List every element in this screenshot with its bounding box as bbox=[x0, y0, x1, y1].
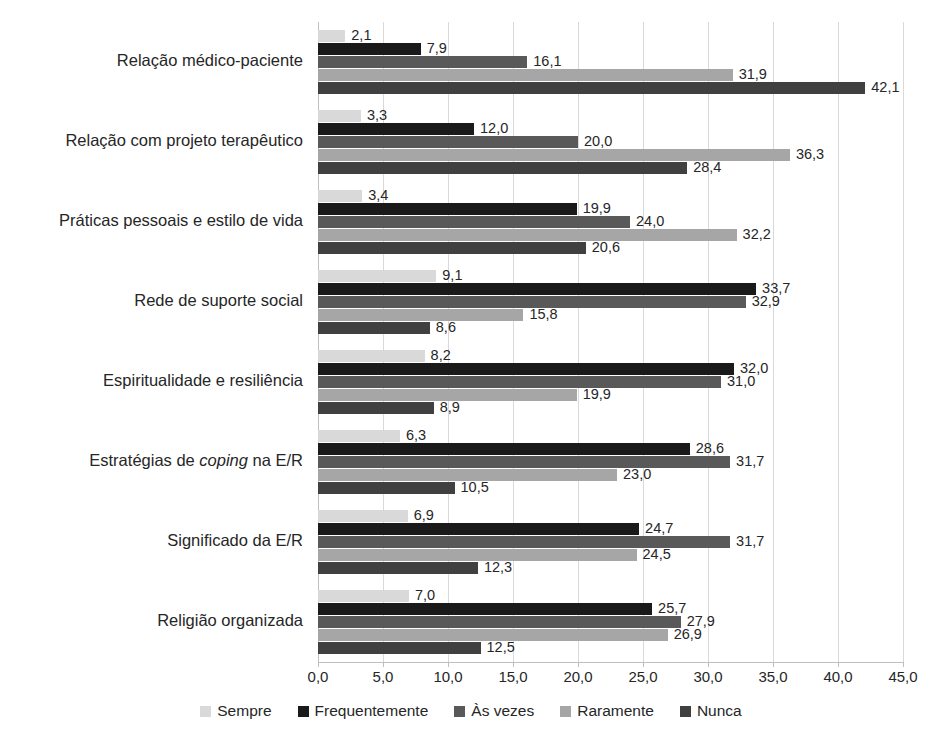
bar[interactable] bbox=[318, 350, 425, 362]
bar-row: 12,5 bbox=[318, 642, 903, 654]
bar-value-label: 24,0 bbox=[630, 213, 664, 229]
bar[interactable] bbox=[318, 242, 586, 254]
legend-item[interactable]: Às vezes bbox=[454, 702, 534, 720]
bar[interactable] bbox=[318, 376, 721, 388]
bar[interactable] bbox=[318, 603, 652, 615]
x-axis-line bbox=[318, 662, 903, 663]
bar[interactable] bbox=[318, 136, 578, 148]
bar[interactable] bbox=[318, 30, 345, 42]
bar[interactable] bbox=[318, 523, 639, 535]
bar[interactable] bbox=[318, 216, 630, 228]
category-label: Estratégias de coping na E/R bbox=[3, 451, 303, 470]
bar[interactable] bbox=[318, 123, 474, 135]
bar-row: 28,4 bbox=[318, 162, 903, 174]
bar-value-label: 9,1 bbox=[436, 267, 462, 283]
legend-swatch-icon bbox=[560, 706, 571, 717]
bar[interactable] bbox=[318, 283, 756, 295]
bar-value-label: 32,9 bbox=[746, 293, 780, 309]
legend-swatch-icon bbox=[200, 706, 211, 717]
chart-legend: SempreFrequentementeÀs vezesRaramenteNun… bbox=[0, 702, 942, 720]
bar-value-label: 12,0 bbox=[474, 120, 508, 136]
bar-value-label: 24,7 bbox=[639, 520, 673, 536]
x-axis-tick-label: 5,0 bbox=[373, 668, 394, 685]
chart-container: Relação médico-pacienteRelação com proje… bbox=[0, 0, 942, 749]
bar[interactable] bbox=[318, 69, 733, 81]
bar[interactable] bbox=[318, 82, 865, 94]
category-label: Relação médico-paciente bbox=[3, 51, 303, 70]
x-axis-tick-label: 25,0 bbox=[628, 668, 657, 685]
bar-row: 8,2 bbox=[318, 350, 903, 362]
bar-value-label: 8,9 bbox=[434, 399, 460, 415]
bar-row: 7,0 bbox=[318, 590, 903, 602]
bar[interactable] bbox=[318, 110, 361, 122]
bar[interactable] bbox=[318, 322, 430, 334]
bar-value-label: 16,1 bbox=[527, 53, 561, 69]
legend-item[interactable]: Frequentemente bbox=[298, 702, 429, 720]
bar[interactable] bbox=[318, 642, 481, 654]
gridline bbox=[903, 22, 904, 662]
bar-row: 24,7 bbox=[318, 523, 903, 535]
bar-row: 10,5 bbox=[318, 482, 903, 494]
bar-value-label: 28,6 bbox=[690, 440, 724, 456]
plot-area: 2,17,916,131,942,13,312,020,036,328,43,4… bbox=[318, 22, 903, 662]
bar-row: 19,9 bbox=[318, 389, 903, 401]
bar[interactable] bbox=[318, 590, 409, 602]
bar[interactable] bbox=[318, 562, 478, 574]
x-axis-tick bbox=[903, 662, 904, 667]
bar[interactable] bbox=[318, 309, 523, 321]
bar[interactable] bbox=[318, 203, 577, 215]
x-axis-tick bbox=[773, 662, 774, 667]
x-axis-tick-label: 15,0 bbox=[498, 668, 527, 685]
category-label: Práticas pessoais e estilo de vida bbox=[3, 211, 303, 230]
bar[interactable] bbox=[318, 43, 421, 55]
bar[interactable] bbox=[318, 270, 436, 282]
bar[interactable] bbox=[318, 456, 730, 468]
bar-value-label: 31,9 bbox=[733, 66, 767, 82]
bar[interactable] bbox=[318, 510, 408, 522]
x-axis-tick bbox=[448, 662, 449, 667]
category-label-text: Práticas pessoais e estilo de vida bbox=[59, 211, 303, 229]
bar-value-label: 15,8 bbox=[523, 306, 557, 322]
bar[interactable] bbox=[318, 443, 690, 455]
bar-row: 36,3 bbox=[318, 149, 903, 161]
x-axis-tick bbox=[708, 662, 709, 667]
legend-label: Às vezes bbox=[471, 702, 534, 720]
bar-group: 7,025,727,926,912,5 bbox=[318, 590, 903, 655]
bar-value-label: 6,9 bbox=[408, 507, 434, 523]
bar-row: 24,5 bbox=[318, 549, 903, 561]
bar[interactable] bbox=[318, 162, 687, 174]
category-label: Rede de suporte social bbox=[3, 291, 303, 310]
legend-item[interactable]: Raramente bbox=[560, 702, 654, 720]
bar-row: 33,7 bbox=[318, 283, 903, 295]
category-label: Espiritualidade e resiliência bbox=[3, 371, 303, 390]
legend-label: Nunca bbox=[697, 702, 742, 720]
legend-item[interactable]: Nunca bbox=[680, 702, 742, 720]
bar-row: 8,9 bbox=[318, 402, 903, 414]
bar-row: 19,9 bbox=[318, 203, 903, 215]
bar-value-label: 19,9 bbox=[577, 386, 611, 402]
bar-row: 3,3 bbox=[318, 110, 903, 122]
bar[interactable] bbox=[318, 482, 455, 494]
bar[interactable] bbox=[318, 363, 734, 375]
bar-value-label: 24,5 bbox=[637, 546, 671, 562]
bar-row: 2,1 bbox=[318, 30, 903, 42]
bar[interactable] bbox=[318, 616, 681, 628]
category-label: Religião organizada bbox=[3, 611, 303, 630]
bar-value-label: 6,3 bbox=[400, 427, 426, 443]
legend-label: Frequentemente bbox=[315, 702, 429, 720]
bar-row: 32,9 bbox=[318, 296, 903, 308]
bar-row: 31,7 bbox=[318, 536, 903, 548]
x-axis-tick bbox=[838, 662, 839, 667]
bar-row: 28,6 bbox=[318, 443, 903, 455]
bar[interactable] bbox=[318, 190, 362, 202]
bar[interactable] bbox=[318, 56, 527, 68]
legend-item[interactable]: Sempre bbox=[200, 702, 271, 720]
bar[interactable] bbox=[318, 430, 400, 442]
bar-group: 6,328,631,723,010,5 bbox=[318, 430, 903, 495]
x-axis-tick-label: 35,0 bbox=[758, 668, 787, 685]
bar-row: 31,7 bbox=[318, 456, 903, 468]
bar[interactable] bbox=[318, 402, 434, 414]
bar[interactable] bbox=[318, 229, 737, 241]
bar-value-label: 7,9 bbox=[421, 40, 447, 56]
x-axis-tick bbox=[383, 662, 384, 667]
